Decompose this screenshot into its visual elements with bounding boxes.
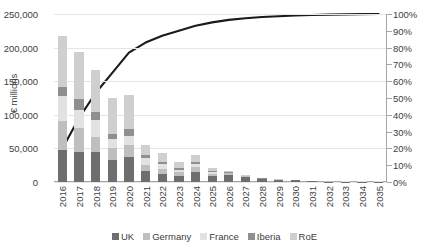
bar-segment-germany [74,128,83,152]
legend-swatch-icon [248,233,255,240]
y-axis-right-tickmark [387,148,392,149]
legend-swatch-icon [200,233,207,240]
gridline [54,182,387,183]
legend-item-uk[interactable]: UK [112,231,134,242]
bar-segment-uk [241,177,250,182]
bar-stack[interactable] [307,181,316,182]
bar-segment-france [58,96,67,121]
bar-segment-uk [174,176,183,182]
bar-stack[interactable] [274,179,283,182]
bar-stack[interactable] [208,168,217,182]
bar-segment-germany [91,137,100,152]
x-axis-tick-label: 2020 [123,186,134,207]
bar-segment-roe [74,52,83,99]
y-axis-right-tickmark [387,182,392,183]
plot-area [54,14,387,182]
bar-stack[interactable] [241,175,250,182]
y-axis-right-tick-label: 10% [393,160,412,171]
bar-segment-uk [274,180,283,182]
bar-segment-germany [108,148,117,160]
y-axis-right-tick-label: 70% [393,59,412,70]
y-axis-tick-label: 100,000 [4,109,38,120]
bar-segment-roe [191,155,200,162]
bar-segment-uk [257,179,266,182]
y-axis-right-tick-label: 30% [393,126,412,137]
cumulative-line-layer [54,14,387,182]
bar-stack[interactable] [74,52,83,182]
y-axis-right-tick-label: 60% [393,76,412,87]
bar-segment-roe [158,153,167,162]
bar-segment-france [91,120,100,137]
bar-segment-uk [158,174,167,182]
bar-stack[interactable] [108,98,117,182]
y-axis-right-tick-label: 90% [393,25,412,36]
bar-segment-germany [58,121,67,150]
y-axis-right-tick-label: 0% [393,177,407,188]
gridline [54,115,387,116]
y-axis-right-tick-label: 100% [393,9,417,20]
gridline [54,148,387,149]
y-axis-right-tickmark [387,48,392,49]
bar-stack[interactable] [141,145,150,182]
y-axis-tick-label: 150,000 [4,76,38,87]
bar-segment-uk [108,160,117,182]
legend-item-france[interactable]: France [200,231,239,242]
y-axis-tick-label: 250,000 [4,9,38,20]
bar-segment-roe [141,145,150,155]
bar-segment-uk [191,172,200,182]
legend-item-germany[interactable]: Germany [143,231,191,242]
bar-segment-uk [307,181,316,182]
bar-stack[interactable] [257,178,266,182]
bar-stack[interactable] [58,36,67,182]
bar-segment-roe [124,95,133,129]
y-axis-right-tickmark [387,165,392,166]
bar-segment-uk [224,175,233,182]
x-axis-line [54,181,387,182]
bar-segment-uk [91,152,100,182]
legend-item-iberia[interactable]: Iberia [248,231,281,242]
bar-segment-roe [58,36,67,88]
bar-segment-uk [208,176,217,182]
bar-stack[interactable] [174,162,183,182]
y-axis-right-tick-label: 40% [393,109,412,120]
x-axis-tick-label: 2027 [240,186,251,207]
bar-segment-roe [108,98,117,134]
x-axis-tick-label: 2031 [307,186,318,207]
legend-label: France [209,231,239,242]
x-axis-tick-label: 2035 [373,186,384,207]
bar-segment-iberia [124,129,133,136]
x-axis-tick-label: 2030 [290,186,301,207]
bar-segment-germany [124,145,133,157]
bar-stack[interactable] [224,171,233,182]
x-axis-tick-label: 2034 [357,186,368,207]
bar-stack[interactable] [291,180,300,182]
bar-stack[interactable] [124,95,133,182]
legend-label: Iberia [257,231,281,242]
x-axis-tick-label: 2021 [140,186,151,207]
legend-label: Germany [152,231,191,242]
bar-segment-france [74,110,83,128]
legend-swatch-icon [143,233,150,240]
bar-stack[interactable] [357,181,366,182]
bar-stack[interactable] [324,181,333,182]
legend-item-roe[interactable]: RoE [290,231,317,242]
y-axis-tick-label: 200,000 [4,42,38,53]
bar-segment-roe [91,70,100,112]
legend-label: RoE [299,231,317,242]
y-axis-right-tickmark [387,31,392,32]
bar-stack[interactable] [374,181,383,182]
bar-segment-uk [74,152,83,182]
bar-stack[interactable] [158,153,167,182]
bar-stack[interactable] [341,181,350,182]
bar-segment-iberia [74,99,83,110]
y-axis-right-tickmark [387,14,392,15]
bar-stack[interactable] [191,155,200,182]
bar-segment-iberia [58,87,67,96]
gridline [54,14,387,15]
x-axis-tick-label: 2023 [173,186,184,207]
bar-stack[interactable] [91,70,100,182]
y-axis-right-tick-label: 80% [393,42,412,53]
x-axis-tick-label: 2025 [207,186,218,207]
bar-segment-uk [141,171,150,182]
stacked-bar-chart: € millions UKGermanyFranceIberiaRoE 250,… [0,0,429,248]
